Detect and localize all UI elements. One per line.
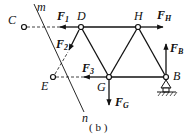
label-F2: F2 (55, 37, 68, 52)
member-HB (138, 27, 166, 77)
label-H: H (133, 9, 144, 23)
node-C (22, 25, 27, 30)
label-F3: F3 (81, 61, 94, 76)
label-FH: FH (156, 8, 172, 23)
figure-caption: ( b ) (89, 121, 108, 134)
label-E: E (40, 79, 49, 93)
node-B (164, 75, 169, 80)
label-B: B (173, 69, 181, 83)
label-G: G (97, 80, 106, 94)
label-FG: FG (114, 95, 129, 110)
node-E (51, 75, 56, 80)
member-HG (109, 27, 138, 77)
section-label-m: m (37, 0, 46, 14)
force-F2-arrow (69, 30, 79, 50)
label-F1: F1 (56, 9, 69, 24)
node-H (136, 25, 141, 30)
label-D: D (76, 9, 86, 23)
node-G (107, 75, 112, 80)
label-C: C (8, 13, 17, 27)
node-D (79, 25, 84, 30)
truss-diagram: m n C D H E G B F1 F2 (0, 0, 193, 139)
label-FB: FB (169, 41, 184, 56)
section-label-n: n (82, 111, 88, 125)
